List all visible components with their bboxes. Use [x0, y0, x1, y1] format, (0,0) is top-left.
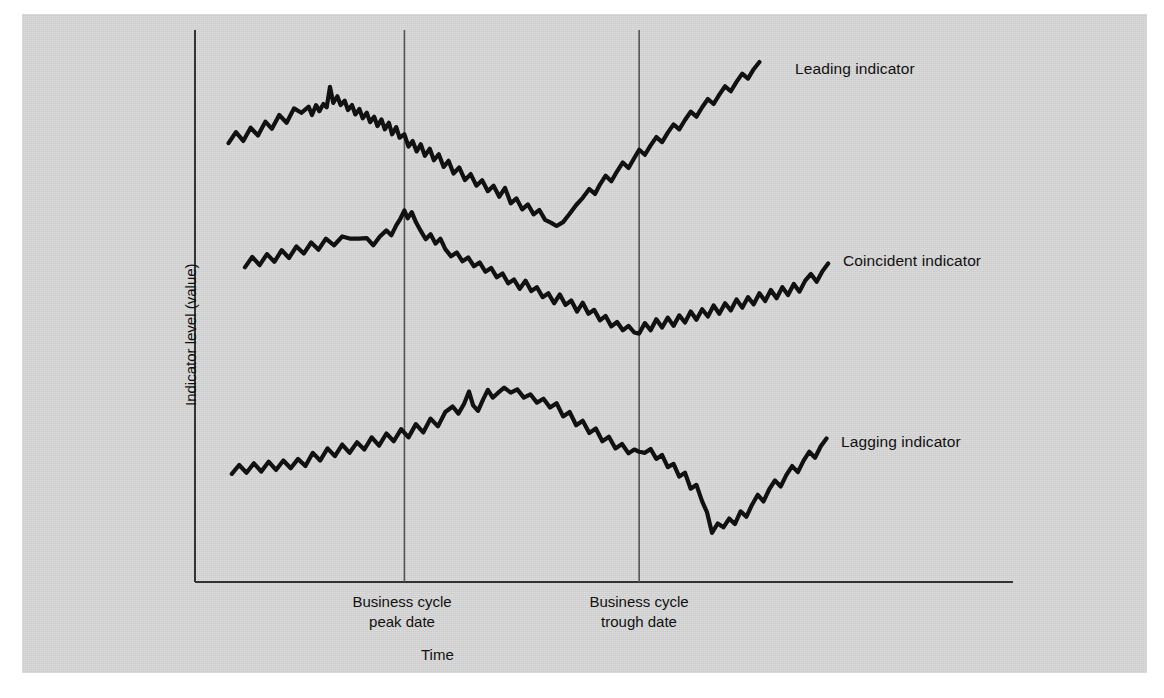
figure-container: Indicator level (value) Leading indicato… — [0, 0, 1164, 698]
series-label-coincident: Coincident indicator — [843, 252, 981, 270]
series-label-leading: Leading indicator — [795, 60, 915, 78]
series-label-lagging: Lagging indicator — [841, 433, 961, 451]
trough-annotation-line1: Business cycle — [539, 592, 739, 612]
series-line-leading — [229, 62, 760, 226]
y-axis-label: Indicator level (value) — [182, 263, 199, 406]
peak-annotation-line1: Business cycle — [302, 592, 502, 612]
axis-lines — [195, 30, 1013, 582]
x-axis-label: Time — [421, 646, 454, 663]
trough-annotation-line2: trough date — [539, 612, 739, 632]
trough-date-annotation: Business cycle trough date — [539, 592, 739, 633]
peak-date-annotation: Business cycle peak date — [302, 592, 502, 633]
reference-lines — [404, 30, 639, 582]
peak-annotation-line2: peak date — [302, 612, 502, 632]
series-line-lagging — [232, 388, 827, 533]
series-line-coincident — [245, 211, 828, 334]
series-group — [229, 62, 829, 533]
